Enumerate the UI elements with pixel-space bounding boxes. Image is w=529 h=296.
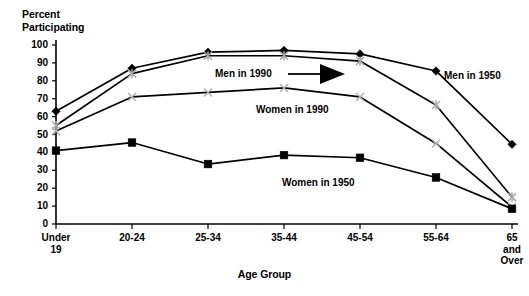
x-tick-label-4: 45-54 (325, 232, 395, 244)
x-tick-label-1: 20-24 (97, 232, 167, 244)
annotation-men-1950: Men in 1950 (444, 70, 501, 81)
marker-square (508, 205, 516, 213)
marker-square (432, 174, 440, 182)
series-men-in-1990 (52, 46, 516, 148)
marker-square (52, 147, 60, 155)
x-tick-label-3: 35-44 (249, 232, 319, 244)
marker-diamond (52, 107, 60, 115)
series-line (56, 50, 512, 144)
arrow-head (320, 64, 345, 84)
annotation-men-1990: Men in 1990 (215, 68, 272, 79)
annotation-arrow-men-1990 (288, 64, 345, 84)
marker-square (356, 154, 364, 162)
line-chart: Percent Participating 100908070605040302… (0, 0, 529, 296)
series-women-in-1950 (52, 139, 516, 213)
annotation-women-1990: Women in 1990 (256, 104, 329, 115)
series-women-in-1990 (52, 84, 516, 211)
x-axis-title: Age Group (0, 268, 529, 281)
marker-square (280, 151, 288, 159)
x-tick-label-2: 25-34 (173, 232, 243, 244)
x-tick-label-5: 55-64 (401, 232, 471, 244)
x-tick-label-0: Under 19 (21, 232, 91, 255)
annotation-women-1950: Women in 1950 (282, 177, 355, 188)
marker-square (128, 139, 136, 147)
x-tick-label-6: 65 and Over (477, 232, 529, 267)
marker-square (204, 160, 212, 168)
